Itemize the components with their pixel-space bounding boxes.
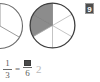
worksheet-canvas: 1 3 = 6 2 9 — [0, 0, 100, 82]
numerator-input-blank[interactable] — [24, 60, 31, 66]
fraction-answer-sixths: 6 — [23, 60, 32, 78]
fraction-circle-sixths — [29, 2, 76, 49]
equals-sign: = — [14, 65, 21, 74]
fraction-circle-thirds — [0, 2, 24, 50]
sixths-circle-svg — [29, 2, 76, 49]
equation-row: 1 3 = 6 2 — [3, 57, 42, 81]
denominator-right: 6 — [24, 69, 31, 78]
fraction-one-third: 1 3 — [3, 59, 12, 80]
thirds-circle-svg — [0, 2, 24, 50]
problem-number-badge: 9 — [85, 3, 94, 14]
denominator-left: 3 — [4, 71, 11, 80]
thirds-circle-outline — [0, 4, 23, 49]
numerator-left: 1 — [4, 59, 11, 68]
trailing-value: 2 — [34, 64, 42, 75]
